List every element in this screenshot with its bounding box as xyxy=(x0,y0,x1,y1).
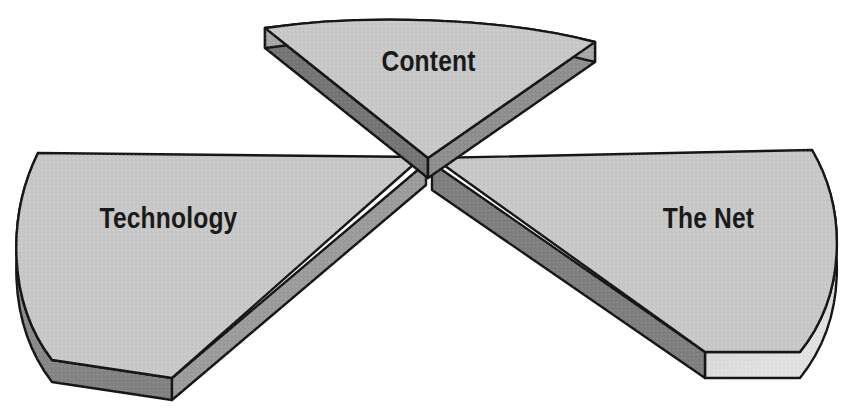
pie-slice-technology[interactable] xyxy=(16,153,426,400)
pie-slice-content[interactable] xyxy=(265,20,595,178)
exploded-pie-diagram: Content Technology The Net xyxy=(0,0,857,419)
pie-chart-svg xyxy=(0,0,857,419)
pie-slice-the-net[interactable] xyxy=(432,150,837,378)
